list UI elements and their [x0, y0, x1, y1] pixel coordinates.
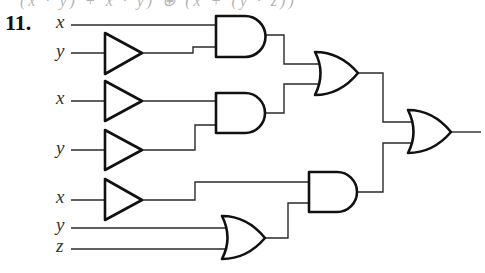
or-gate-2	[222, 216, 265, 259]
and-gate-3	[309, 172, 357, 212]
and-gate-1	[216, 16, 265, 57]
or-gate-1	[315, 52, 358, 95]
inverter-gate-1	[105, 33, 142, 74]
inverter-gate-2	[105, 81, 142, 121]
inverter-gate-3	[105, 130, 142, 170]
inverter-gate-4	[105, 179, 142, 220]
and-gate-2	[216, 93, 265, 133]
logic-circuit-diagram: (x · y) + x · y) ⊕ (x + (y · z)) 11. x y…	[0, 0, 485, 273]
circuit-svg	[0, 0, 485, 273]
or-gate-output	[408, 110, 451, 153]
